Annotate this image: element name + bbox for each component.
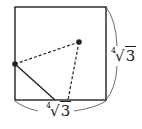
root-index: 4: [46, 101, 51, 110]
radical-sign: √: [50, 102, 60, 120]
solid-segment: [15, 64, 55, 100]
radicand: 3: [60, 101, 72, 120]
bottom-brace-left: [15, 101, 38, 111]
point-left-side: [12, 61, 18, 67]
root-index: 4: [111, 46, 116, 55]
dashed-segment-interior-to-bottom: [68, 42, 79, 100]
bottom-side-label: 4√3: [46, 103, 71, 119]
right-brace-bottom: [106, 66, 117, 100]
dashed-segment-left-to-interior: [15, 42, 79, 64]
right-side-label: 4√3: [111, 48, 136, 64]
right-brace-top: [106, 7, 117, 46]
radicand: 3: [125, 46, 137, 65]
bottom-brace-right: [74, 101, 106, 111]
radical-sign: √: [115, 47, 125, 65]
square: [15, 7, 106, 100]
point-interior: [76, 39, 82, 45]
